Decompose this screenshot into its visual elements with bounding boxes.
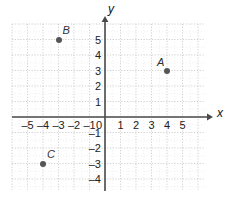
- y-tick-label: 3: [95, 65, 101, 76]
- data-point-c: [40, 161, 46, 167]
- y-tick-label: –2: [89, 143, 101, 154]
- y-tick-label: 2: [95, 81, 101, 92]
- axes: [0, 0, 228, 211]
- data-point-b: [56, 37, 62, 43]
- x-tick-label: 1: [117, 120, 123, 131]
- coordinate-plane-figure: –5–4–3–2–112345 –4–3–2–112345 0 x y ABC: [0, 0, 228, 211]
- x-axis-label: x: [217, 107, 223, 119]
- point-label-b: B: [63, 25, 70, 36]
- y-tick-label: –4: [89, 174, 101, 185]
- x-tick-label: –3: [52, 120, 64, 131]
- y-tick-label: 5: [95, 34, 101, 45]
- x-tick-label: 3: [148, 120, 154, 131]
- origin-label: 0: [96, 120, 102, 131]
- point-label-a: A: [157, 57, 164, 68]
- x-tick-label: 4: [164, 120, 170, 131]
- y-tick-label: –3: [89, 158, 101, 169]
- x-tick-label: –2: [68, 120, 80, 131]
- y-axis-label: y: [108, 3, 114, 15]
- y-tick-label: 1: [95, 96, 101, 107]
- x-tick-label: –5: [21, 120, 33, 131]
- y-axis-arrowhead: [102, 16, 109, 22]
- point-label-c: C: [47, 149, 55, 160]
- x-tick-label: –4: [37, 120, 49, 131]
- x-axis-arrowhead: [207, 114, 213, 121]
- x-tick-label: 5: [179, 120, 185, 131]
- y-tick-label: 4: [95, 50, 101, 61]
- data-point-a: [164, 68, 170, 74]
- x-tick-label: 2: [133, 120, 139, 131]
